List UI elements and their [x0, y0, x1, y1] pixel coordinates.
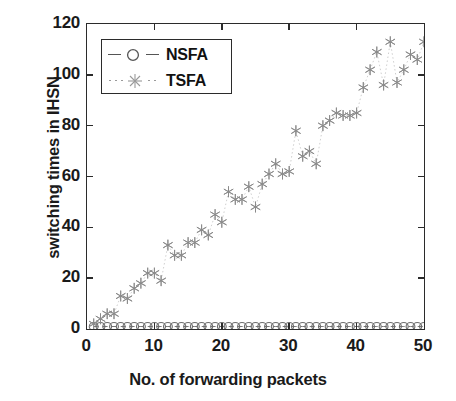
- data-point-tsfa: [251, 202, 260, 213]
- data-point-tsfa: [177, 250, 186, 261]
- x-tick-mark: [154, 24, 156, 30]
- data-point-tsfa: [237, 194, 246, 205]
- data-point-tsfa: [96, 313, 105, 324]
- asterisk-marker-icon: [102, 68, 166, 94]
- data-point-tsfa: [197, 225, 206, 236]
- data-point-tsfa: [150, 268, 159, 279]
- y-tick-mark: [418, 277, 424, 279]
- data-point-tsfa: [170, 250, 179, 261]
- x-tick-label: 0: [56, 336, 116, 356]
- data-point-tsfa: [399, 64, 408, 75]
- y-tick-label: 60: [20, 166, 80, 186]
- series-nsfa: [89, 323, 424, 330]
- data-point-tsfa: [163, 240, 172, 251]
- data-point-tsfa: [258, 179, 267, 190]
- x-tick-mark: [288, 24, 290, 30]
- y-tick-mark: [418, 227, 424, 229]
- x-tick-label: 30: [258, 336, 318, 356]
- data-point-tsfa: [359, 82, 368, 93]
- data-point-tsfa: [365, 64, 374, 75]
- legend-entry-nsfa: NSFA: [102, 41, 233, 68]
- legend-label-tsfa: TSFA: [166, 72, 206, 90]
- data-point-tsfa: [291, 125, 300, 136]
- data-point-tsfa: [224, 186, 233, 197]
- data-point-tsfa: [143, 268, 152, 279]
- data-point-tsfa: [264, 169, 273, 180]
- data-point-tsfa: [285, 166, 294, 177]
- y-tick-mark: [87, 176, 93, 178]
- x-tick-mark: [356, 323, 358, 329]
- y-tick-mark: [418, 74, 424, 76]
- data-point-tsfa: [136, 278, 145, 289]
- x-tick-mark: [221, 24, 223, 30]
- y-tick-mark: [418, 125, 424, 127]
- x-tick-mark: [221, 323, 223, 329]
- x-axis-label: No. of forwarding packets: [0, 370, 456, 389]
- y-tick-label: 100: [20, 64, 80, 84]
- y-tick-label: 120: [20, 13, 80, 33]
- plot-area: NSFA: [86, 23, 425, 330]
- chart-figure: switching times in IHSN 020406080100120 …: [0, 0, 456, 401]
- data-point-tsfa: [298, 151, 307, 162]
- data-point-tsfa: [231, 194, 240, 205]
- y-tick-mark: [87, 74, 93, 76]
- data-point-tsfa: [204, 230, 213, 241]
- data-point-tsfa: [278, 169, 287, 180]
- data-point-tsfa: [419, 36, 424, 47]
- legend-label-nsfa: NSFA: [166, 46, 208, 64]
- x-tick-label: 10: [123, 336, 183, 356]
- data-point-tsfa: [305, 146, 314, 157]
- chart-legend: NSFA: [101, 39, 232, 94]
- x-tick-label: 40: [326, 336, 386, 356]
- x-tick-mark: [154, 323, 156, 329]
- data-point-tsfa: [372, 47, 381, 58]
- data-point-tsfa: [413, 54, 422, 65]
- y-tick-label: 0: [20, 318, 80, 338]
- data-point-tsfa: [386, 36, 395, 47]
- x-tick-label: 20: [191, 336, 251, 356]
- circle-marker-icon: [102, 42, 166, 68]
- y-tick-mark: [87, 227, 93, 229]
- y-tick-mark: [87, 125, 93, 127]
- x-tick-mark: [288, 323, 290, 329]
- y-tick-label: 20: [20, 267, 80, 287]
- y-tick-mark: [418, 176, 424, 178]
- data-point-tsfa: [318, 120, 327, 131]
- y-tick-label: 80: [20, 115, 80, 135]
- x-tick-mark: [356, 24, 358, 30]
- data-point-tsfa: [312, 158, 321, 169]
- y-tick-label: 40: [20, 216, 80, 236]
- data-point-tsfa: [271, 158, 280, 169]
- y-tick-mark: [87, 277, 93, 279]
- x-axis-tick-labels: 01020304050: [0, 336, 456, 366]
- x-tick-label: 50: [393, 336, 453, 356]
- legend-entry-tsfa: TSFA: [102, 67, 233, 94]
- data-point-tsfa: [379, 80, 388, 91]
- data-point-tsfa: [406, 49, 415, 60]
- data-point-tsfa: [130, 283, 139, 294]
- data-point-tsfa: [244, 181, 253, 192]
- data-point-tsfa: [157, 275, 166, 286]
- data-point-tsfa: [392, 77, 401, 88]
